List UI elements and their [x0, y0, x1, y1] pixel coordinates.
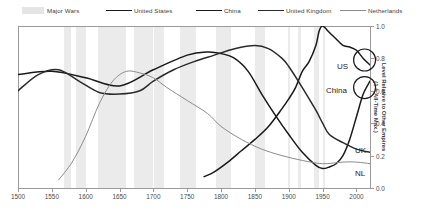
x-axis-tick-label: 1800 — [214, 193, 228, 200]
chart-container: Major WarsUnited StatesChinaUnited Kingd… — [0, 0, 422, 213]
legend-item-label: United Kingdom — [286, 7, 331, 14]
legend-line-swatch — [340, 10, 366, 11]
series-line-united-kingdom — [18, 45, 370, 152]
chart-legend: Major WarsUnited StatesChinaUnited Kingd… — [0, 0, 422, 20]
legend-item-label: Major Wars — [47, 7, 79, 14]
x-axis-tick-mark — [187, 188, 188, 192]
y-axis-title-line2: (1 = All-Time Max.) — [371, 81, 379, 133]
x-axis-tick-mark — [221, 188, 222, 192]
x-axis-ticks: 1500155016001650170017501800185019001950… — [18, 188, 370, 210]
legend-item-united-kingdom[interactable]: United Kingdom — [258, 7, 331, 14]
legend-line-swatch — [106, 10, 132, 11]
x-axis-tick-mark — [255, 188, 256, 192]
legend-item-netherlands[interactable]: Netherlands — [340, 7, 402, 14]
y-axis-tick-mark — [370, 188, 374, 189]
x-axis-tick-mark — [86, 188, 87, 192]
x-axis-tick-label: 1900 — [282, 193, 296, 200]
x-axis-tick-mark — [18, 188, 19, 192]
x-axis-tick-label: 1500 — [11, 193, 25, 200]
x-axis-tick-label: 1550 — [45, 193, 59, 200]
series-end-label-uk: UK — [355, 146, 366, 155]
x-axis-tick-label: 1600 — [79, 193, 93, 200]
legend-band-swatch — [22, 7, 44, 14]
plot-area — [18, 26, 370, 188]
series-end-label-china: China — [326, 86, 347, 95]
legend-item-label: China — [224, 7, 241, 14]
series-end-label-nl: NL — [355, 169, 365, 178]
x-axis-tick-mark — [289, 188, 290, 192]
x-axis-tick-mark — [52, 188, 53, 192]
x-axis-tick-mark — [120, 188, 121, 192]
legend-item-major-wars[interactable]: Major Wars — [22, 7, 79, 14]
legend-line-swatch — [258, 10, 284, 11]
x-axis-tick-mark — [356, 188, 357, 192]
series-end-label-us: US — [337, 62, 348, 71]
x-axis-tick-label: 1700 — [146, 193, 160, 200]
x-axis-tick-mark — [323, 188, 324, 192]
x-axis-tick-label: 2000 — [349, 193, 363, 200]
x-axis-tick-label: 1950 — [316, 193, 330, 200]
legend-item-united-states[interactable]: United States — [106, 7, 172, 14]
series-line-china — [18, 52, 370, 169]
x-axis-tick-label: 1850 — [248, 193, 262, 200]
legend-item-china[interactable]: China — [196, 7, 241, 14]
series-lines — [18, 26, 370, 188]
x-axis-tick-label: 1750 — [180, 193, 194, 200]
x-axis-tick-label: 1650 — [112, 193, 126, 200]
legend-line-swatch — [196, 10, 222, 11]
legend-item-label: Netherlands — [368, 7, 402, 14]
legend-item-label: United States — [134, 7, 172, 14]
y-axis-title-line1: Level Relative to Other Empires — [379, 63, 387, 152]
series-line-united-states — [204, 26, 370, 177]
y-axis-title: Level Relative to Other Empires (1 = All… — [366, 26, 392, 188]
x-axis-tick-mark — [153, 188, 154, 192]
